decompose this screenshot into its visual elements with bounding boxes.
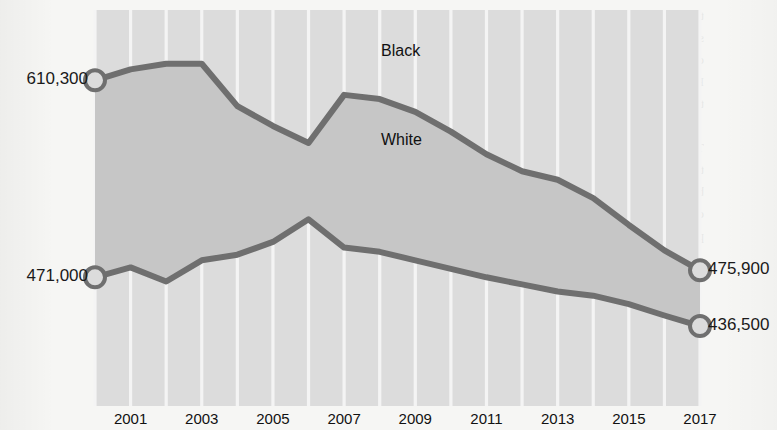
data-point-marker [85, 70, 105, 90]
series-label-white: White [381, 131, 422, 149]
x-tick-label: 2011 [456, 410, 516, 427]
right-value-label-white: 436,500 [708, 315, 769, 335]
gridline [663, 10, 666, 406]
x-tick-label: 2009 [385, 410, 445, 427]
x-tick-label: 2007 [314, 410, 374, 427]
x-tick-label: 2015 [599, 410, 659, 427]
x-tick-label: 2001 [101, 410, 161, 427]
left-value-label-white: 471,000 [27, 266, 88, 286]
x-tick-label: 2017 [670, 410, 730, 427]
x-tick-label: 2005 [243, 410, 303, 427]
data-point-marker [690, 260, 710, 280]
right-value-label-black: 475,900 [708, 259, 769, 279]
line-area-chart [0, 0, 777, 430]
data-point-marker [690, 316, 710, 336]
data-point-marker [85, 267, 105, 287]
gridline [698, 10, 701, 406]
gridline [627, 10, 630, 406]
x-tick-label: 2013 [528, 410, 588, 427]
x-tick-label: 2003 [172, 410, 232, 427]
left-value-label-black: 610,300 [27, 69, 88, 89]
series-label-black: Black [381, 42, 420, 60]
